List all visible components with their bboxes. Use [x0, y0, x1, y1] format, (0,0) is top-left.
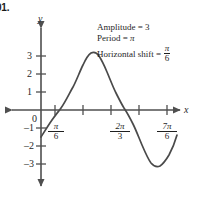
annotation-shift-label: Horizontal shift = — [97, 49, 161, 59]
annotation-horizontal-shift: Horizontal shift = π 6 — [97, 44, 171, 63]
x-tick-label-7pi-over-6: 7π 6 — [157, 122, 177, 141]
annotation-shift-fraction: π 6 — [164, 44, 171, 63]
annotation-amplitude-value: 3 — [145, 22, 150, 32]
y-tick-label-1: 1 — [27, 86, 32, 97]
y-tick-label-neg-3: –3 — [23, 158, 34, 169]
x-tick-2-denominator: 3 — [110, 132, 130, 141]
annotation-amplitude-label: Amplitude = — [97, 22, 143, 32]
x-tick-label-pi-over-6: π 6 — [48, 122, 64, 141]
figure-container: 01. — [0, 0, 197, 202]
x-axis-label: x — [183, 104, 189, 115]
y-tick-label-3: 3 — [27, 50, 32, 61]
annotation-amplitude: Amplitude = 3 — [97, 22, 150, 33]
y-tick-label-neg-2: –2 — [23, 140, 34, 151]
annotation-period-value: π — [130, 33, 135, 43]
x-tick-1-denominator: 6 — [48, 132, 64, 141]
x-tick-label-2pi-over-3: 2π 3 — [110, 122, 130, 141]
y-axis-label: y — [37, 13, 43, 24]
annotation-shift-denominator: 6 — [164, 54, 171, 63]
annotation-period: Period = π — [97, 33, 135, 44]
y-tick-label-neg-1: –1 — [23, 122, 34, 133]
x-tick-3-denominator: 6 — [157, 132, 177, 141]
annotation-period-label: Period = — [97, 33, 128, 43]
y-tick-label-2: 2 — [27, 68, 32, 79]
